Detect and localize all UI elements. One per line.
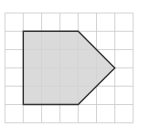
grid-diagram [0, 0, 143, 132]
pentagon-shape [23, 31, 115, 104]
